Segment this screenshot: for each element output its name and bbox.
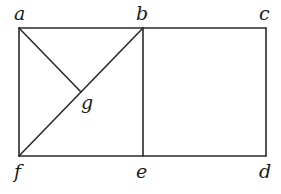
- label-a: a: [14, 2, 25, 24]
- label-g: g: [81, 91, 93, 113]
- label-f: f: [12, 160, 24, 182]
- label-e: e: [136, 160, 147, 182]
- geometry-diagram: a b c g f e d: [0, 0, 281, 194]
- label-b: b: [136, 2, 148, 24]
- segment-ag: [19, 28, 81, 92]
- label-d: d: [259, 160, 271, 182]
- label-c: c: [259, 2, 270, 24]
